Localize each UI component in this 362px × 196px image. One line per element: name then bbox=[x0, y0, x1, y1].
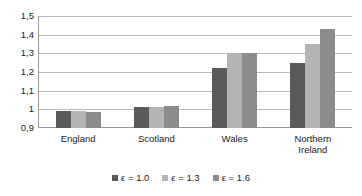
y-axis-tick-label: 1 bbox=[0, 104, 34, 114]
legend-item: ε = 1.0 bbox=[112, 172, 149, 183]
legend-item: ε = 1.3 bbox=[162, 172, 199, 183]
y-axis-tick-label: 0,9 bbox=[0, 123, 34, 133]
legend-label: ε = 1.3 bbox=[171, 172, 199, 183]
bar bbox=[290, 63, 305, 128]
legend-item: ε = 1.6 bbox=[213, 172, 250, 183]
y-axis-tick-label: 1,1 bbox=[0, 86, 34, 96]
x-axis-category-label: Northern Ireland bbox=[274, 133, 352, 155]
bar-chart: 0,911,11,21,31,41,5 EnglandScotlandWales… bbox=[0, 0, 362, 196]
x-axis-category-label: Wales bbox=[196, 133, 274, 144]
bar-group bbox=[117, 16, 195, 128]
legend-swatch-icon bbox=[213, 175, 219, 181]
bar bbox=[86, 112, 101, 128]
x-axis-category-label: England bbox=[39, 133, 117, 144]
legend-label: ε = 1.0 bbox=[121, 172, 149, 183]
bar-group bbox=[274, 16, 352, 128]
bar-group bbox=[39, 16, 117, 128]
bar bbox=[56, 111, 71, 128]
bar bbox=[134, 107, 149, 128]
bar bbox=[320, 29, 335, 128]
bar bbox=[164, 106, 179, 128]
y-axis-tick-label: 1,3 bbox=[0, 48, 34, 58]
bar bbox=[305, 44, 320, 128]
x-axis-category-label: Scotland bbox=[117, 133, 195, 144]
legend-label: ε = 1.6 bbox=[222, 172, 250, 183]
y-axis-tick-label: 1,4 bbox=[0, 30, 34, 40]
bar bbox=[149, 107, 164, 128]
bar bbox=[71, 111, 86, 128]
legend-swatch-icon bbox=[112, 175, 118, 181]
chart-legend: ε = 1.0ε = 1.3ε = 1.6 bbox=[0, 172, 362, 183]
y-axis-tick-label: 1,5 bbox=[0, 11, 34, 21]
bar bbox=[227, 53, 242, 128]
bar-group bbox=[196, 16, 274, 128]
y-axis-tick-label: 1,2 bbox=[0, 67, 34, 77]
bars-layer bbox=[39, 16, 352, 128]
bar bbox=[212, 68, 227, 128]
legend-swatch-icon bbox=[162, 175, 168, 181]
bar bbox=[242, 53, 257, 128]
